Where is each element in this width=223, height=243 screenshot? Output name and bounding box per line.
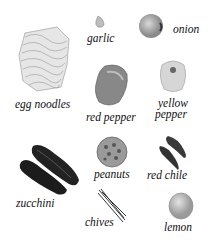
egg-noodles-image [17, 25, 73, 95]
red-chile-image [158, 134, 188, 172]
chives-label: chives [85, 217, 114, 228]
onion-label: onion [173, 24, 199, 35]
peanuts-label: peanuts [94, 169, 130, 180]
red-pepper-image [91, 62, 131, 108]
peanuts-image [96, 136, 128, 168]
garlic-label: garlic [87, 33, 114, 44]
zucchini-image [17, 140, 83, 196]
yellow-pepper-image [158, 57, 188, 93]
egg-noodles-label: egg noodles [15, 99, 70, 110]
lemon-label: lemon [164, 222, 192, 233]
zucchini-label: zucchini [16, 198, 54, 209]
onion-image [138, 13, 164, 39]
red-pepper-label: red pepper [86, 112, 136, 123]
garlic-image [94, 15, 106, 29]
lemon-image [167, 191, 195, 221]
yellow-pepper-label-line2: pepper [155, 109, 187, 120]
red-chile-label: red chile [147, 170, 187, 181]
